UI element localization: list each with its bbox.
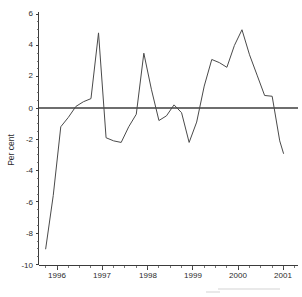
chart-container: Per cent 6 4 2 0 -2 -4 -6 -8 -10 1996 19… <box>0 0 302 297</box>
y-tick-label: -10 <box>21 261 33 270</box>
y-tick-label: 0 <box>29 104 34 113</box>
y-axis-label: Per cent <box>6 134 16 166</box>
y-tick-label: -2 <box>26 135 34 144</box>
y-axis-tick-labels: 6 4 2 0 -2 -4 -6 -8 -10 <box>21 9 33 270</box>
data-series-line <box>46 30 284 249</box>
x-tick-label: 2000 <box>229 271 247 280</box>
y-tick-label: -4 <box>26 166 34 175</box>
x-tick-label: 1998 <box>139 271 157 280</box>
x-tick-label: 2001 <box>274 271 292 280</box>
y-tick-label: 6 <box>29 9 34 18</box>
x-axis-tick-labels: 1996 1997 1998 1999 2000 2001 <box>48 271 292 280</box>
y-tick-label: 2 <box>29 71 34 80</box>
x-tick-label: 1999 <box>184 271 202 280</box>
y-tick-label: -8 <box>26 229 34 238</box>
scan-artifact <box>218 288 280 290</box>
scan-artifact <box>206 291 220 293</box>
y-tick-label: 4 <box>29 40 34 49</box>
line-chart: Per cent 6 4 2 0 -2 -4 -6 -8 -10 1996 19… <box>0 0 302 297</box>
x-tick-label: 1996 <box>48 271 66 280</box>
x-tick-label: 1997 <box>93 271 111 280</box>
y-tick-label: -6 <box>26 198 34 207</box>
x-axis-ticks <box>46 266 295 270</box>
